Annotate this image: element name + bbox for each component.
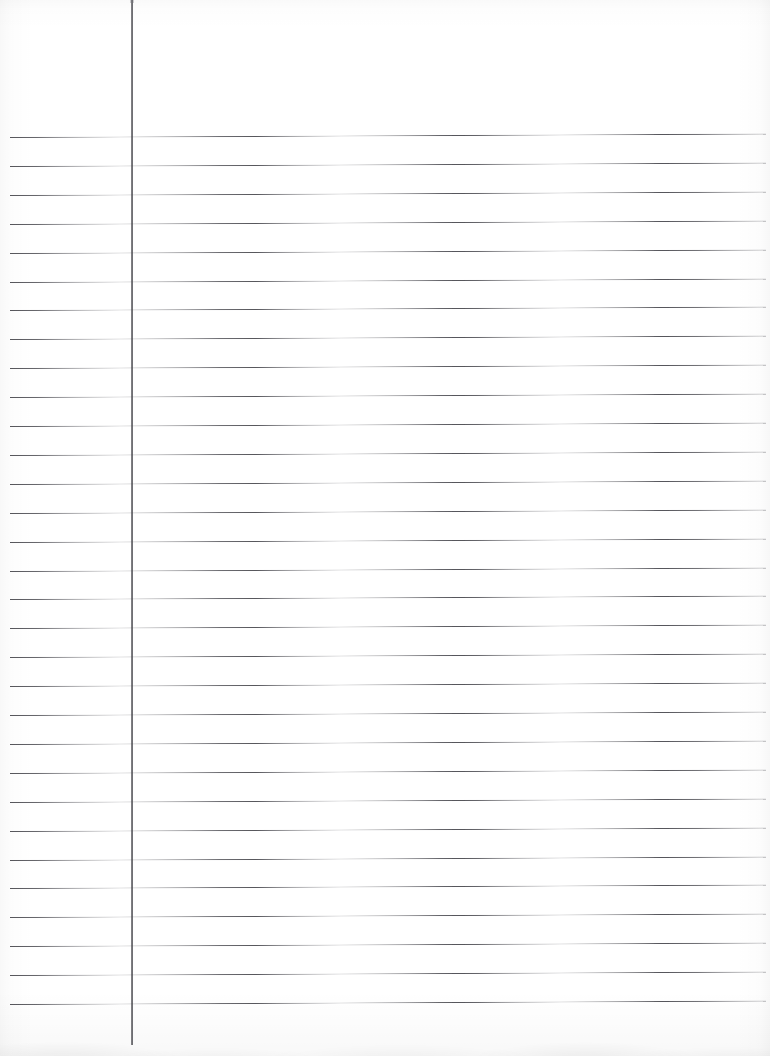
rule-line <box>10 798 766 803</box>
rule-line <box>10 567 766 572</box>
ruled-lines-layer <box>0 0 770 1056</box>
rule-line <box>10 336 766 341</box>
rule-line <box>10 162 766 167</box>
rule-line <box>10 885 766 890</box>
rule-line <box>10 509 766 514</box>
rule-line <box>10 538 766 543</box>
rule-line <box>10 394 766 399</box>
rule-line <box>10 914 766 919</box>
rule-line <box>10 423 766 428</box>
rule-line <box>10 307 766 312</box>
rule-line <box>10 191 766 196</box>
rule-line <box>10 943 766 948</box>
margin-rule-line <box>131 0 133 1045</box>
rule-line <box>10 220 766 225</box>
rule-line <box>10 769 766 774</box>
rule-line <box>10 365 766 370</box>
rule-line <box>10 278 766 283</box>
rule-line <box>10 596 766 601</box>
rule-line <box>10 654 766 659</box>
rule-line <box>10 249 766 254</box>
margin-rule-top-tick-icon <box>130 0 134 3</box>
rule-line <box>10 740 766 745</box>
rule-line <box>10 972 766 977</box>
rule-line <box>10 827 766 832</box>
rule-line <box>10 712 766 717</box>
rule-line <box>10 625 766 630</box>
notebook-paper-sheet <box>0 0 770 1056</box>
rule-line <box>10 856 766 861</box>
rule-line <box>10 134 766 139</box>
rule-line <box>10 480 766 485</box>
rule-line <box>10 451 766 456</box>
rule-line <box>10 683 766 688</box>
rule-line <box>10 1001 766 1006</box>
